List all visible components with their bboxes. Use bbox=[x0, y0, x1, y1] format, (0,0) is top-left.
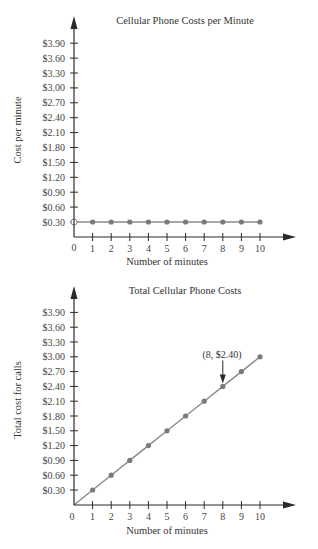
data-point bbox=[90, 219, 95, 224]
data-point bbox=[257, 219, 262, 224]
data-point bbox=[257, 354, 262, 359]
x-tick-label: 9 bbox=[239, 243, 244, 254]
y-tick-label: $1.50 bbox=[43, 157, 66, 168]
charts-canvas: Cellular Phone Costs per Minute Cost per… bbox=[0, 0, 318, 549]
data-point bbox=[202, 219, 207, 224]
annotation-arrow bbox=[220, 360, 226, 383]
annotation-arrow-head-icon bbox=[220, 374, 226, 383]
y-tick-label: $2.40 bbox=[43, 381, 66, 392]
x-tick-label: 1 bbox=[90, 243, 95, 254]
chart-title: Total Cellular Phone Costs bbox=[129, 285, 242, 296]
data-point bbox=[127, 219, 132, 224]
y-tick-label: $3.90 bbox=[43, 307, 66, 318]
y-axis-label: Cost per minute bbox=[12, 96, 23, 163]
x-tick-label: 9 bbox=[239, 511, 244, 522]
chart-title: Cellular Phone Costs per Minute bbox=[116, 15, 254, 26]
y-tick-label: $0.90 bbox=[43, 455, 66, 466]
x-tick-label: 6 bbox=[183, 243, 188, 254]
y-tick-label: $3.60 bbox=[43, 53, 66, 64]
x-tick-label: 4 bbox=[146, 511, 151, 522]
y-tick-label: $3.30 bbox=[43, 337, 66, 348]
data-series bbox=[71, 219, 263, 225]
y-tick-label: $1.80 bbox=[43, 411, 66, 422]
data-series bbox=[74, 354, 263, 505]
y-tick-label: $1.20 bbox=[43, 440, 66, 451]
x-axis-ticks: 12345678910 bbox=[90, 501, 265, 522]
x-axis-arrow-icon bbox=[283, 502, 296, 509]
y-tick-label: $0.60 bbox=[43, 470, 66, 481]
x-tick-label: 8 bbox=[220, 243, 225, 254]
y-axis-ticks: $0.30$0.60$0.90$1.20$1.50$1.80$2.10$2.40… bbox=[43, 307, 79, 496]
y-tick-label: $2.70 bbox=[43, 366, 66, 377]
y-axis-arrow-icon bbox=[71, 286, 78, 299]
data-point bbox=[183, 219, 188, 224]
x-axis-label: Number of minutes bbox=[126, 525, 208, 536]
y-tick-label: $2.40 bbox=[43, 112, 66, 123]
y-axis-label: Total cost for calls bbox=[12, 361, 23, 439]
y-tick-label: $2.70 bbox=[43, 97, 66, 108]
origin-label: 0 bbox=[70, 511, 75, 522]
data-point bbox=[239, 369, 244, 374]
y-tick-label: $3.30 bbox=[43, 68, 66, 79]
x-tick-label: 7 bbox=[202, 511, 207, 522]
x-tick-label: 1 bbox=[90, 511, 95, 522]
data-point bbox=[220, 219, 225, 224]
x-tick-label: 10 bbox=[255, 511, 265, 522]
x-axis-ticks: 12345678910 bbox=[90, 233, 265, 254]
y-axis-ticks: $0.30$0.60$0.90$1.20$1.50$1.80$2.10$2.40… bbox=[43, 38, 79, 228]
x-tick-label: 10 bbox=[255, 243, 265, 254]
data-point bbox=[146, 443, 151, 448]
data-point bbox=[183, 413, 188, 418]
origin-label: 0 bbox=[72, 242, 77, 253]
x-tick-label: 3 bbox=[127, 243, 132, 254]
x-tick-label: 6 bbox=[183, 511, 188, 522]
axes bbox=[71, 16, 297, 241]
y-tick-label: $1.20 bbox=[43, 172, 66, 183]
y-tick-label: $0.90 bbox=[43, 187, 66, 198]
data-point bbox=[220, 384, 225, 389]
axes bbox=[71, 286, 297, 509]
y-tick-label: $0.30 bbox=[43, 217, 66, 228]
x-tick-label: 7 bbox=[202, 243, 207, 254]
y-tick-label: $0.60 bbox=[43, 202, 66, 213]
y-tick-label: $3.00 bbox=[43, 82, 66, 93]
x-tick-label: 2 bbox=[109, 511, 114, 522]
y-tick-label: $1.50 bbox=[43, 425, 66, 436]
y-tick-label: $0.30 bbox=[43, 485, 66, 496]
data-point bbox=[127, 458, 132, 463]
data-point bbox=[164, 428, 169, 433]
y-tick-label: $2.10 bbox=[43, 396, 66, 407]
x-tick-label: 2 bbox=[109, 243, 114, 254]
y-tick-label: $3.90 bbox=[43, 38, 66, 49]
x-tick-label: 5 bbox=[165, 243, 170, 254]
x-tick-label: 3 bbox=[127, 511, 132, 522]
x-tick-label: 8 bbox=[220, 511, 225, 522]
y-axis-arrow-icon bbox=[71, 16, 78, 29]
data-point bbox=[109, 473, 114, 478]
y-tick-label: $3.60 bbox=[43, 322, 66, 333]
y-tick-label: $2.10 bbox=[43, 127, 66, 138]
x-tick-label: 5 bbox=[165, 511, 170, 522]
x-tick-label: 4 bbox=[146, 243, 151, 254]
chart-total-cost: Total Cellular Phone Costs Total cost fo… bbox=[12, 285, 296, 536]
data-point bbox=[90, 487, 95, 492]
data-point bbox=[202, 399, 207, 404]
y-tick-label: $1.80 bbox=[43, 142, 66, 153]
y-tick-label: $3.00 bbox=[43, 351, 66, 362]
point-annotation: (8, $2.40) bbox=[202, 349, 241, 361]
chart-cost-per-minute: Cellular Phone Costs per Minute Cost per… bbox=[12, 15, 296, 267]
data-point bbox=[109, 219, 114, 224]
data-point bbox=[239, 219, 244, 224]
x-axis-label: Number of minutes bbox=[126, 256, 208, 267]
data-point bbox=[164, 219, 169, 224]
data-point bbox=[146, 219, 151, 224]
x-axis-arrow-icon bbox=[283, 234, 296, 241]
